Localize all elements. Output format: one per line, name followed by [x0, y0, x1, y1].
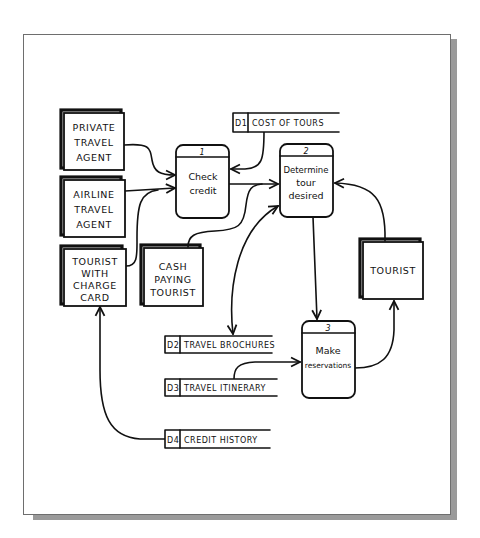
svg-text:CARD: CARD [80, 292, 109, 303]
svg-text:D1: D1 [235, 119, 247, 128]
data-store-d4: D4 CREDIT HISTORY [165, 430, 270, 448]
svg-text:CHARGE: CHARGE [73, 280, 117, 291]
svg-text:COST OF TOURS: COST OF TOURS [252, 119, 324, 128]
svg-text:1: 1 [199, 148, 204, 157]
svg-text:TRAVEL ITINERARY: TRAVEL ITINERARY [183, 384, 266, 393]
svg-text:D3: D3 [167, 384, 179, 393]
process-2-determine-tour-desired: 2 Determine tour desired [280, 144, 333, 217]
svg-text:TOURIST: TOURIST [369, 265, 416, 276]
svg-text:desired: desired [288, 190, 323, 201]
svg-text:WITH: WITH [81, 268, 109, 279]
entity-cash-paying-tourist: CASH PAYING TOURIST [141, 245, 203, 306]
flow-reservations-to-tourist [355, 301, 394, 368]
data-store-d1: D1 COST OF TOURS [233, 113, 339, 132]
svg-text:tour: tour [296, 177, 316, 188]
svg-text:D4: D4 [167, 436, 179, 445]
svg-text:PAYING: PAYING [154, 274, 192, 285]
svg-text:TRAVEL: TRAVEL [73, 204, 113, 215]
process-1-check-credit: 1 Check credit [176, 145, 229, 218]
svg-text:TRAVEL: TRAVEL [73, 137, 113, 148]
svg-text:TOURIST: TOURIST [71, 256, 118, 267]
svg-text:2: 2 [303, 147, 308, 156]
flow-private-agent-to-check-credit [124, 145, 175, 175]
svg-text:TRAVEL BROCHURES: TRAVEL BROCHURES [183, 341, 275, 350]
svg-text:AIRLINE: AIRLINE [73, 189, 114, 200]
data-store-d3: D3 TRAVEL ITINERARY [165, 379, 277, 396]
flow-airline-agent-to-check-credit [125, 188, 175, 191]
svg-text:CASH: CASH [159, 261, 188, 272]
entity-tourist: TOURIST [360, 239, 423, 299]
entity-private-travel-agent: PRIVATE TRAVEL AGENT [61, 110, 124, 170]
svg-text:TOURIST: TOURIST [149, 287, 196, 298]
flow-cost-of-tours-to-check-credit [231, 132, 264, 169]
flow-credit-history-to-charge-card-tourist [100, 307, 165, 439]
svg-text:PRIVATE: PRIVATE [73, 122, 116, 133]
svg-text:AGENT: AGENT [76, 219, 112, 230]
svg-text:Make: Make [315, 345, 340, 356]
svg-text:D2: D2 [167, 341, 179, 350]
svg-text:Determine: Determine [284, 165, 329, 175]
svg-text:3: 3 [325, 324, 330, 333]
svg-text:reservations: reservations [305, 361, 352, 370]
svg-text:CREDIT HISTORY: CREDIT HISTORY [184, 436, 258, 445]
svg-text:AGENT: AGENT [76, 152, 112, 163]
data-flow-diagram: PRIVATE TRAVEL AGENT AIRLINE TRAVEL AGEN… [0, 0, 480, 538]
flow-determine-tour-to-reservations [313, 217, 317, 319]
svg-text:credit: credit [189, 185, 216, 196]
process-3-make-reservations: 3 Make reservations [302, 321, 355, 398]
entity-airline-travel-agent: AIRLINE TRAVEL AGENT [61, 177, 125, 237]
flow-itinerary-to-reservations [234, 362, 300, 379]
flow-tourist-to-determine-tour [335, 183, 385, 241]
svg-text:Check: Check [188, 171, 218, 182]
entity-tourist-with-charge-card: TOURIST WITH CHARGE CARD [61, 246, 126, 306]
data-store-d2: D2 TRAVEL BROCHURES [165, 336, 275, 353]
